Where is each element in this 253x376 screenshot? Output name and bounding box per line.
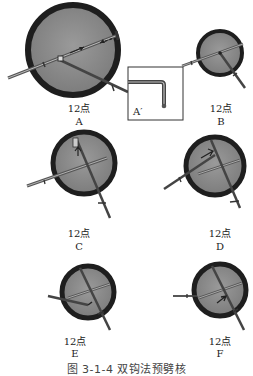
panel-e-letter: E [55, 348, 95, 360]
panel-a-lens [8, 5, 128, 95]
panel-c-clock-label: 12点 [59, 228, 99, 240]
panel-b-lens [182, 31, 245, 88]
panel-f-lens [173, 264, 246, 330]
panel-c-letter: C [59, 241, 99, 253]
figure-caption: 图 3-1-4 双钩法预劈核 [0, 360, 253, 376]
panel-a-clock-label: 12点 [59, 103, 99, 115]
panel-d-lens [164, 137, 244, 208]
panel-b-letter: B [201, 116, 241, 128]
panel-d-letter: D [200, 241, 240, 253]
inset-a-prime-label: A′ [133, 106, 143, 117]
panel-c-lens [27, 132, 115, 218]
panel-e-lens [48, 266, 114, 330]
panel-d-clock-label: 12点 [200, 228, 240, 240]
panel-a-letter: A [59, 116, 99, 128]
panel-f-clock-label: 12点 [200, 336, 240, 348]
panel-b-clock-label: 12点 [201, 103, 241, 115]
panel-f-letter: F [200, 348, 240, 360]
panel-e-clock-label: 12点 [55, 336, 95, 348]
